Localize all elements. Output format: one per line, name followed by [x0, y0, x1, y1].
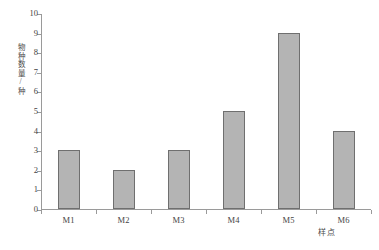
x-axis-tick-mark [41, 210, 42, 214]
plot-area: 012345678910 M1M2M3M4M5M6 [41, 14, 371, 210]
y-axis-title: 物种数量/种 [9, 14, 25, 124]
y-axis-tick-label: 5 [34, 106, 38, 117]
y-axis-tick-label: 8 [34, 47, 38, 58]
y-axis-tick-label: 4 [34, 126, 38, 137]
x-axis-category-label: M3 [159, 215, 199, 226]
y-axis-tick-label: 3 [34, 145, 38, 156]
y-axis-tick-label: 6 [34, 86, 38, 97]
y-axis-tick-label: 10 [30, 8, 39, 19]
x-axis-tick-mark [151, 210, 152, 214]
x-axis-tick-mark [261, 210, 262, 214]
y-axis-tick-label: 1 [34, 184, 38, 195]
y-axis-tick-label: 9 [34, 28, 38, 39]
x-axis-title: 样点 [318, 228, 336, 238]
x-axis-category-label: M5 [269, 215, 309, 226]
x-axis-category-label: M6 [324, 215, 364, 226]
y-axis-tick-label: 2 [34, 165, 38, 176]
bar [113, 170, 135, 209]
x-axis-tick-mark [316, 210, 317, 214]
x-axis-category-label: M2 [104, 215, 144, 226]
bar [223, 111, 245, 209]
x-axis-tick-mark [371, 210, 372, 214]
x-axis-category-label: M1 [49, 215, 89, 226]
bar [168, 150, 190, 209]
bar [278, 33, 300, 209]
y-axis-tick-label: 7 [34, 67, 38, 78]
bar [58, 150, 80, 209]
y-axis-tick-label: 0 [34, 204, 38, 215]
x-axis-tick-mark [96, 210, 97, 214]
x-axis-tick-mark [206, 210, 207, 214]
bar-chart-figure: 物种数量/种 012345678910 M1M2M3M4M5M6 样点 [0, 0, 379, 250]
x-axis-category-label: M4 [214, 215, 254, 226]
bars-layer [41, 14, 371, 210]
bar [333, 131, 355, 209]
